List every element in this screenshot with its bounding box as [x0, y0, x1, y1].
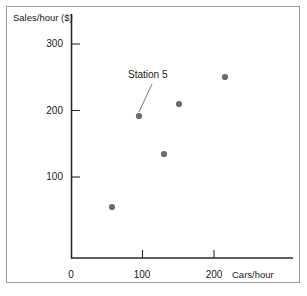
- data-point: [109, 204, 115, 210]
- y-tick-label-200: 200: [23, 105, 63, 116]
- x-tick-label-0: 0: [51, 269, 91, 280]
- annotation-station-5: Station 5: [128, 69, 167, 80]
- data-point: [161, 151, 167, 157]
- data-point: [176, 101, 182, 107]
- chart-figure: Sales/hour ($) 300 200 100 0 100 200 Car…: [0, 0, 307, 296]
- x-tick-label-100: 100: [122, 269, 162, 280]
- y-tick-label-100: 100: [23, 171, 63, 182]
- x-tick-label-200: 200: [194, 269, 234, 280]
- data-point-station-5: [136, 113, 142, 119]
- annotation-leader-line: [139, 84, 152, 112]
- data-point: [222, 74, 228, 80]
- x-axis-title: Cars/hour: [232, 269, 274, 280]
- y-tick-label-300: 300: [23, 38, 63, 49]
- y-axis-title: Sales/hour ($): [13, 12, 73, 23]
